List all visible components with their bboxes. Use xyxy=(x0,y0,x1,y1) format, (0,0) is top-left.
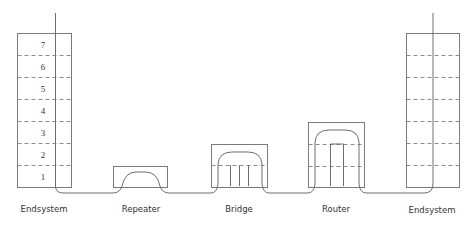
bridge-caption: Bridge xyxy=(225,204,253,214)
endsystem-left-caption: Endsystem xyxy=(21,204,68,214)
endsystem-right-caption: Endsystem xyxy=(409,205,456,215)
layer-7-label: 7 xyxy=(41,40,46,50)
osi-relay-diagram: 7 6 5 4 3 2 1 Endsystem Repeater Bridge xyxy=(0,0,476,225)
data-path xyxy=(56,13,434,193)
layer-2-label: 2 xyxy=(41,150,46,160)
router-stack xyxy=(309,123,365,188)
layer-3-label: 3 xyxy=(41,128,46,138)
router-caption: Router xyxy=(322,204,351,214)
endsystem-left-stack: 7 6 5 4 3 2 1 xyxy=(18,34,72,188)
layer-6-label: 6 xyxy=(41,62,46,72)
layer-5-label: 5 xyxy=(41,84,46,94)
layer-1-label: 1 xyxy=(41,172,46,182)
router-inner-loop xyxy=(331,144,344,186)
layer-4-label: 4 xyxy=(41,106,46,116)
repeater-caption: Repeater xyxy=(122,204,161,214)
router-box xyxy=(309,123,365,188)
